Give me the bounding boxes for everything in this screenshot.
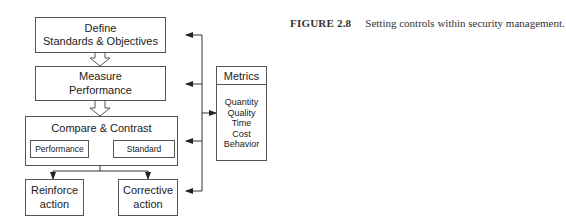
define-line-2: Standards & Objectives — [43, 35, 158, 48]
metric-item: Quality — [217, 108, 266, 119]
metric-item: Quantity — [217, 97, 266, 108]
metrics-feedback-bus — [186, 35, 216, 191]
figure-number: FIGURE 2.8 — [290, 17, 351, 29]
branch-connector — [53, 166, 148, 179]
measure-performance-box: Measure Performance — [35, 66, 166, 101]
reinforce-line-1: Reinforce — [31, 184, 78, 197]
standard-label: Standard — [127, 144, 162, 154]
standard-box: Standard — [113, 140, 175, 158]
performance-label: Performance — [35, 144, 84, 154]
reinforce-action-box: Reinforce action — [25, 179, 84, 216]
metric-item: Cost — [217, 129, 266, 140]
metric-item: Behavior — [217, 139, 266, 150]
reinforce-line-2: action — [40, 198, 69, 211]
define-standards-box: Define Standards & Objectives — [35, 17, 166, 53]
metrics-box: Metrics Quantity Quality Time Cost Behav… — [216, 66, 267, 161]
flow-arrow-measure-to-compare — [90, 100, 110, 116]
measure-line-1: Measure — [79, 70, 122, 83]
metrics-title: Metrics — [217, 67, 266, 85]
flow-arrow-define-to-measure — [90, 52, 110, 66]
metric-item: Time — [217, 118, 266, 129]
compare-title: Compare & Contrast — [26, 122, 177, 134]
figure-caption: FIGURE 2.8Setting controls within securi… — [290, 17, 565, 29]
measure-line-2: Performance — [69, 84, 132, 97]
corrective-line-1: Corrective — [123, 184, 173, 197]
caption-text: Setting controls within security managem… — [365, 17, 565, 29]
corrective-line-2: action — [133, 198, 162, 211]
corrective-action-box: Corrective action — [118, 179, 178, 216]
performance-box: Performance — [30, 140, 89, 158]
compare-contrast-box: Compare & Contrast Performance Standard — [25, 116, 178, 166]
metrics-list: Quantity Quality Time Cost Behavior — [217, 85, 266, 150]
define-line-1: Define — [85, 22, 117, 35]
